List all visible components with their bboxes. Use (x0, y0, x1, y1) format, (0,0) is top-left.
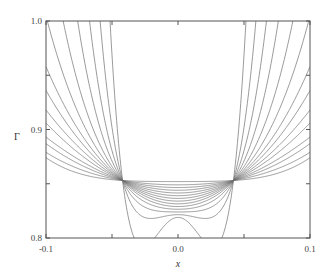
x-tick-label: -0.1 (39, 244, 53, 254)
y-tick-label: 0.8 (31, 233, 43, 243)
y-tick-label: 0.9 (31, 125, 43, 135)
series-line-6 (46, 16, 310, 204)
series-line-7 (46, 67, 310, 202)
series-line-3 (46, 0, 310, 212)
x-tick-labels: -0.10.00.1 (39, 244, 316, 254)
y-axis-title: Γ (14, 131, 20, 142)
series-line-13 (46, 152, 310, 185)
series-line-4 (46, 0, 310, 209)
plot-frame (46, 21, 310, 238)
series-line-14 (46, 158, 310, 182)
series-line-11 (46, 137, 310, 190)
series-line-1 (46, 0, 310, 247)
chart: -0.10.00.1 0.80.91.0 x Γ (0, 0, 330, 280)
series-line-9 (46, 110, 310, 196)
x-axis-title: x (175, 258, 181, 269)
y-tick-label: 1.0 (31, 16, 43, 26)
axis-ticks (46, 21, 310, 238)
curve-family (46, 0, 310, 247)
y-tick-labels: 0.80.91.0 (31, 16, 43, 243)
x-tick-label: 0.1 (304, 244, 315, 254)
x-tick-label: 0.0 (172, 244, 184, 254)
series-line-10 (46, 123, 310, 193)
series-line-8 (46, 90, 310, 198)
series-line-12 (46, 144, 310, 188)
